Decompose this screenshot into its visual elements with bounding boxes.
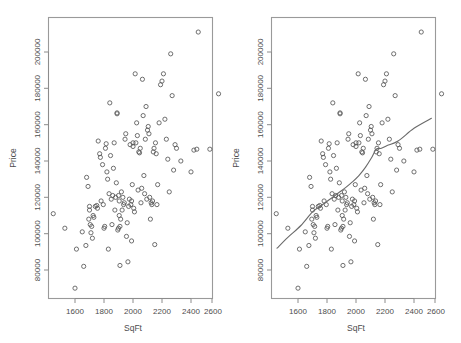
- data-point: [402, 159, 406, 163]
- data-point: [286, 226, 290, 230]
- data-point: [125, 221, 129, 225]
- y-tick-label: 180000: [256, 74, 265, 101]
- data-point: [123, 137, 127, 141]
- data-point: [138, 146, 142, 150]
- data-point: [126, 260, 130, 264]
- data-point: [319, 139, 323, 143]
- x-tick-label: 2400: [405, 307, 423, 316]
- y-axis-title: Price: [8, 148, 18, 168]
- data-point: [393, 94, 397, 98]
- data-point: [358, 121, 362, 125]
- y-axis: [44, 52, 49, 270]
- data-point: [346, 137, 350, 141]
- data-point: [370, 132, 374, 136]
- data-point: [389, 157, 393, 161]
- data-point: [85, 175, 89, 179]
- plot-frame: [272, 18, 436, 299]
- data-point: [305, 264, 309, 268]
- data-point: [113, 208, 117, 212]
- data-point: [134, 141, 138, 145]
- data-point: [140, 77, 144, 81]
- data-point: [387, 137, 391, 141]
- data-point: [297, 247, 301, 251]
- panel-right-plot-area: 1600 1800 2000 2200 2400 2600 80000 1000…: [231, 18, 445, 334]
- y-tick-label: 160000: [256, 111, 265, 138]
- data-point: [363, 77, 367, 81]
- data-point: [135, 133, 139, 137]
- data-point: [356, 72, 360, 76]
- data-point: [343, 208, 347, 212]
- data-point: [352, 239, 356, 243]
- y-tick-label: 80000: [256, 258, 265, 281]
- data-point: [347, 234, 351, 238]
- data-point: [143, 137, 147, 141]
- data-point: [170, 94, 174, 98]
- data-point: [108, 153, 112, 157]
- data-point: [196, 30, 200, 34]
- y-tick-label: 160000: [33, 111, 42, 138]
- x-tick-label: 2000: [124, 307, 142, 316]
- data-point: [108, 101, 112, 105]
- data-point: [105, 170, 109, 174]
- data-point: [308, 175, 312, 179]
- x-axis-title: SqFt: [347, 323, 366, 333]
- x-tick-label: 2200: [376, 307, 394, 316]
- data-point: [376, 242, 380, 246]
- data-point: [133, 72, 137, 76]
- data-point: [119, 217, 123, 221]
- data-point: [307, 243, 311, 247]
- data-point: [392, 52, 396, 56]
- data-point: [349, 260, 353, 264]
- data-point: [362, 201, 366, 205]
- data-point: [139, 201, 143, 205]
- data-point: [303, 230, 307, 234]
- x-tick-label: 1800: [95, 307, 113, 316]
- data-point: [216, 92, 220, 96]
- data-point: [333, 222, 337, 226]
- data-point: [342, 217, 346, 221]
- data-point: [326, 146, 330, 150]
- data-point: [142, 173, 146, 177]
- data-point: [80, 230, 84, 234]
- data-point: [112, 141, 116, 145]
- y-tick-labels: 80000 100000 120000 140000 160000 180000…: [256, 38, 265, 281]
- data-point: [101, 203, 105, 207]
- y-tick-label: 80000: [33, 258, 42, 281]
- data-point: [114, 181, 118, 185]
- data-point: [312, 231, 316, 235]
- data-point: [344, 195, 348, 199]
- data-point: [156, 183, 160, 187]
- data-point: [82, 264, 86, 268]
- data-point: [337, 181, 341, 185]
- data-point: [106, 247, 110, 251]
- data-point: [110, 222, 114, 226]
- data-point: [367, 104, 371, 108]
- data-point: [397, 146, 401, 150]
- data-point: [106, 177, 110, 181]
- plot-frame: [49, 18, 213, 299]
- data-point: [135, 121, 139, 125]
- data-point: [431, 147, 435, 151]
- data-point: [167, 190, 171, 194]
- panel-left-canvas: 1600 1800 2000 2200 2400 2600 80000 1000…: [0, 0, 230, 343]
- data-point: [147, 132, 151, 136]
- data-point: [340, 199, 344, 203]
- x-tick-label: 2400: [182, 307, 200, 316]
- data-point: [161, 72, 165, 76]
- data-point: [169, 52, 173, 56]
- data-point: [84, 243, 88, 247]
- data-point: [366, 137, 370, 141]
- data-point: [412, 170, 416, 174]
- data-point: [348, 221, 352, 225]
- data-point: [74, 247, 78, 251]
- data-point: [160, 79, 164, 83]
- y-tick-label: 100000: [33, 220, 42, 247]
- data-point: [419, 30, 423, 34]
- data-point: [129, 239, 133, 243]
- data-point: [153, 141, 157, 145]
- data-point: [140, 186, 144, 190]
- y-tick-label: 200000: [256, 38, 265, 65]
- x-tick-label: 2200: [153, 307, 171, 316]
- data-point: [119, 190, 123, 194]
- data-point: [117, 199, 121, 203]
